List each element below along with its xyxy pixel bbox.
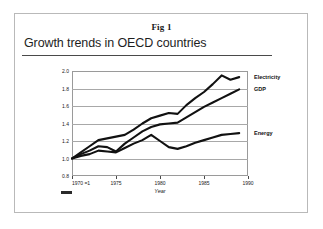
x-axis-title: Year [154,188,165,194]
x-axis-tick-mark [248,176,249,179]
source-credit-mark [61,191,72,194]
y-axis-tick-label: 0.8 [62,173,69,179]
chart-title: Growth trends in OECD countries [24,36,206,50]
y-axis-tick-label: 2.0 [62,68,69,74]
series-label-energy: Energy [254,130,273,136]
x-axis-tick-label: 1990 [242,180,253,186]
x-axis-tick-label: 1970 =1 [72,180,90,186]
y-axis-tick-label: 1.6 [62,103,69,109]
x-axis-tick-label: 1980 [154,180,165,186]
series-label-gdp: GDP [254,86,266,92]
y-axis-tick-label: 1.4 [62,121,69,127]
x-axis-tick-mark [160,176,161,179]
x-axis-tick-mark [72,176,73,179]
title-underline-rule [22,55,272,56]
y-axis-tick-label: 1.2 [62,138,69,144]
x-axis-tick-label: 1985 [198,180,209,186]
x-axis-tick-label: 1975 [110,180,121,186]
series-label-electricity: Electricity [254,74,280,80]
y-axis-tick-label: 1.0 [62,156,69,162]
series-lines-group [72,71,248,176]
x-axis-tick-mark [116,176,117,179]
x-axis-tick-mark [204,176,205,179]
figure-number-caption: Fig 1 [0,22,323,32]
series-line-gdp [72,89,239,158]
figure-container: Fig 1 Growth trends in OECD countries 2.… [0,0,323,229]
plot-area: 2.01.81.61.41.21.00.8 1970 =119751980198… [72,71,248,176]
y-axis-tick-label: 1.8 [62,86,69,92]
